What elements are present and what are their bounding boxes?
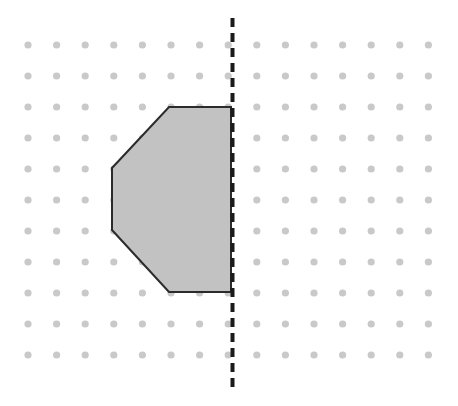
grid-dot[interactable]	[339, 320, 346, 327]
grid-dot[interactable]	[368, 72, 375, 79]
grid-dot[interactable]	[110, 41, 117, 48]
grid-dot[interactable]	[396, 134, 403, 141]
grid-dot[interactable]	[339, 134, 346, 141]
grid-dot[interactable]	[425, 351, 432, 358]
grid-dot[interactable]	[339, 165, 346, 172]
grid-dot[interactable]	[339, 351, 346, 358]
grid-dot[interactable]	[82, 258, 89, 265]
grid-dot[interactable]	[53, 165, 60, 172]
grid-dot[interactable]	[82, 103, 89, 110]
grid-dot[interactable]	[425, 289, 432, 296]
grid-dot[interactable]	[110, 258, 117, 265]
grid-dot[interactable]	[368, 258, 375, 265]
grid-dot[interactable]	[24, 72, 31, 79]
grid-dot[interactable]	[253, 320, 260, 327]
grid-dot[interactable]	[368, 289, 375, 296]
grid-dot[interactable]	[282, 196, 289, 203]
grid-dot[interactable]	[24, 41, 31, 48]
grid-dot[interactable]	[425, 227, 432, 234]
grid-dot[interactable]	[396, 289, 403, 296]
grid-dot[interactable]	[282, 72, 289, 79]
grid-dot[interactable]	[282, 320, 289, 327]
grid-dot[interactable]	[53, 103, 60, 110]
grid-dot[interactable]	[282, 134, 289, 141]
grid-dot[interactable]	[110, 134, 117, 141]
grid-dot[interactable]	[396, 72, 403, 79]
grid-dot[interactable]	[82, 196, 89, 203]
grid-dot[interactable]	[368, 196, 375, 203]
grid-dot[interactable]	[425, 134, 432, 141]
grid-dot[interactable]	[82, 134, 89, 141]
grid-dot[interactable]	[82, 165, 89, 172]
grid-dot[interactable]	[82, 72, 89, 79]
grid-dot[interactable]	[53, 227, 60, 234]
grid-dot[interactable]	[368, 320, 375, 327]
grid-dot[interactable]	[24, 165, 31, 172]
grid-dot[interactable]	[139, 320, 146, 327]
grid-dot[interactable]	[53, 320, 60, 327]
grid-dot[interactable]	[310, 134, 317, 141]
grid-dot[interactable]	[396, 41, 403, 48]
grid-dot[interactable]	[310, 320, 317, 327]
grid-dot[interactable]	[253, 41, 260, 48]
grid-dot[interactable]	[225, 41, 232, 48]
grid-dot[interactable]	[110, 351, 117, 358]
grid-dot[interactable]	[24, 227, 31, 234]
grid-dot[interactable]	[425, 196, 432, 203]
grid-dot[interactable]	[53, 351, 60, 358]
grid-dot[interactable]	[339, 72, 346, 79]
grid-dot[interactable]	[368, 41, 375, 48]
grid-dot[interactable]	[196, 320, 203, 327]
grid-dot[interactable]	[82, 227, 89, 234]
grid-dot[interactable]	[24, 103, 31, 110]
grid-dot[interactable]	[139, 41, 146, 48]
grid-dot[interactable]	[24, 134, 31, 141]
grid-dot[interactable]	[24, 351, 31, 358]
grid-dot[interactable]	[139, 72, 146, 79]
grid-dot[interactable]	[253, 72, 260, 79]
grid-dot[interactable]	[425, 103, 432, 110]
grid-dot[interactable]	[396, 196, 403, 203]
grid-dot[interactable]	[310, 227, 317, 234]
grid-dot[interactable]	[339, 41, 346, 48]
grid-dot[interactable]	[82, 351, 89, 358]
grid-dot[interactable]	[82, 289, 89, 296]
grid-dot[interactable]	[53, 41, 60, 48]
grid-dot[interactable]	[310, 351, 317, 358]
grid-dot[interactable]	[53, 258, 60, 265]
grid-dot[interactable]	[24, 320, 31, 327]
grid-dot[interactable]	[339, 103, 346, 110]
grid-dot[interactable]	[310, 289, 317, 296]
grid-dot[interactable]	[82, 320, 89, 327]
grid-dot[interactable]	[368, 134, 375, 141]
grid-dot[interactable]	[310, 196, 317, 203]
grid-dot[interactable]	[53, 289, 60, 296]
grid-dot[interactable]	[167, 320, 174, 327]
grid-dot[interactable]	[139, 289, 146, 296]
grid-dot[interactable]	[139, 351, 146, 358]
grid-dot[interactable]	[253, 196, 260, 203]
grid-dot[interactable]	[310, 103, 317, 110]
grid-dot[interactable]	[396, 165, 403, 172]
grid-dot[interactable]	[110, 320, 117, 327]
grid-dot[interactable]	[368, 227, 375, 234]
grid-dot[interactable]	[82, 41, 89, 48]
grid-dot[interactable]	[282, 165, 289, 172]
grid-dot[interactable]	[339, 289, 346, 296]
grid-dot[interactable]	[253, 227, 260, 234]
grid-dot[interactable]	[425, 320, 432, 327]
grid-dot[interactable]	[53, 134, 60, 141]
grid-dot[interactable]	[282, 289, 289, 296]
grid-dot[interactable]	[282, 351, 289, 358]
grid-dot[interactable]	[24, 289, 31, 296]
grid-dot[interactable]	[396, 320, 403, 327]
grid-dot[interactable]	[396, 351, 403, 358]
grid-dot[interactable]	[253, 289, 260, 296]
grid-dot[interactable]	[110, 72, 117, 79]
grid-dot[interactable]	[310, 72, 317, 79]
grid-dot[interactable]	[253, 103, 260, 110]
grid-dot[interactable]	[425, 41, 432, 48]
grid-dot[interactable]	[24, 258, 31, 265]
grid-dot[interactable]	[110, 103, 117, 110]
grid-dot[interactable]	[196, 41, 203, 48]
